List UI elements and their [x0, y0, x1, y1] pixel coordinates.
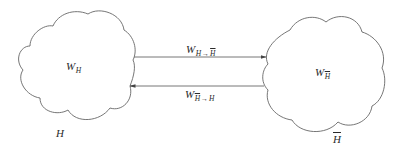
weight-label-hbar: WH: [315, 67, 330, 78]
weight-main: W: [66, 60, 75, 72]
weight-main: W: [315, 66, 324, 78]
weight-label-h: WH: [66, 61, 81, 72]
weight-subscript: H: [325, 72, 330, 81]
weight-subscript: H: [76, 66, 81, 75]
node-name-h: H: [56, 128, 64, 139]
edge-label-main: W: [186, 43, 195, 55]
edge-sub-from: H: [195, 94, 200, 103]
node-name-text: H: [56, 127, 64, 139]
edge-label-h-to-hbar: WH→H: [186, 44, 216, 55]
node-name-text: H: [333, 133, 341, 145]
arrow-glyph: →: [202, 50, 209, 58]
edge-sub-from: H: [196, 49, 201, 58]
diagram-canvas: [0, 0, 393, 148]
edge-label-main: W: [185, 88, 194, 100]
node-name-hbar: H: [333, 134, 341, 145]
edge-sub-to: H: [209, 94, 214, 103]
edge-label-hbar-to-h: WH→H: [185, 89, 215, 100]
arrow-glyph: →: [201, 95, 208, 103]
edge-sub-to: H: [210, 49, 215, 58]
